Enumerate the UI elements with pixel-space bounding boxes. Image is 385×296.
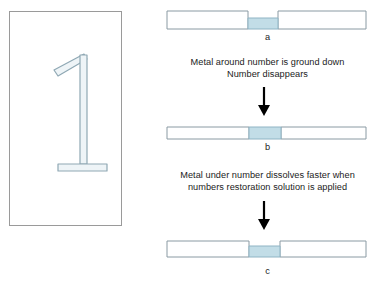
stage-label-b: b <box>150 142 385 152</box>
numeral-base-stroke <box>58 164 107 171</box>
stage-b-bar <box>150 124 385 142</box>
stage-a-left-metal <box>167 11 248 29</box>
stage-c-left-metal <box>167 241 249 257</box>
stage-c-bar <box>150 238 385 260</box>
caption-ground-down: Metal around number is ground down Numbe… <box>150 56 385 81</box>
stage-b-left-metal <box>167 127 249 139</box>
stage-a-bar <box>150 8 385 32</box>
numeral-one-illustration <box>10 12 121 225</box>
stage-b-number-zone <box>249 127 281 139</box>
stage-c-number-zone <box>249 246 280 257</box>
caption-1-line-1: Metal around number is ground down <box>150 56 385 68</box>
stage-b-right-metal <box>281 127 366 139</box>
caption-1-line-2: Number disappears <box>150 68 385 80</box>
restoration-process-column: a Metal around number is ground down Num… <box>150 0 385 296</box>
stage-c-right-metal <box>280 241 366 257</box>
stage-label-c: c <box>150 266 385 276</box>
stamped-number-panel <box>9 11 122 226</box>
arrow-down-1 <box>150 85 385 117</box>
numeral-stem-stroke <box>80 55 87 164</box>
arrow-down-2 <box>150 199 385 231</box>
caption-2-line-1: Metal under number dissolves faster when <box>150 169 385 181</box>
stage-a-right-metal <box>278 11 366 29</box>
stage-a-number-zone <box>248 18 278 29</box>
caption-dissolve: Metal under number dissolves faster when… <box>150 169 385 194</box>
caption-2-line-2: numbers restoration solution is applied <box>150 181 385 193</box>
stage-label-a: a <box>150 32 385 42</box>
